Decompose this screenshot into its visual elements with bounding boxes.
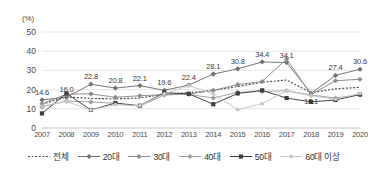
x-axis-tick-2008: 2008: [59, 130, 75, 139]
data-point-marker: [88, 99, 93, 104]
x-axis-tick-2014: 2014: [205, 130, 221, 139]
data-point-marker: [285, 96, 289, 100]
data-point-marker: [89, 108, 93, 112]
y-axis-tick-20: 20: [10, 85, 36, 95]
x-axis-tick-2013: 2013: [181, 130, 197, 139]
x-axis-tick-2019: 2019: [328, 130, 344, 139]
x-axis-tick-2010: 2010: [108, 130, 124, 139]
legend-label: 30대: [153, 150, 170, 162]
data-point-marker: [88, 91, 93, 96]
data-label: 34.1: [280, 51, 294, 60]
legend-swatch-icon: [128, 152, 150, 161]
data-label: 14.6: [35, 88, 49, 97]
data-point-marker: [333, 78, 338, 83]
x-axis-tick-labels: 2007200820092010201120122013201420152016…: [42, 130, 360, 144]
x-axis-tick-2018: 2018: [303, 130, 319, 139]
data-point-marker: [358, 92, 362, 96]
data-point-marker: [211, 102, 215, 106]
data-point-marker: [88, 82, 93, 87]
legend-swatch-icon: [78, 152, 100, 161]
data-label: 19.6: [157, 78, 171, 87]
data-point-marker: [211, 92, 215, 96]
data-point-marker: [113, 103, 117, 107]
data-label: 30.6: [353, 57, 367, 66]
legend-item-2[interactable]: 30대: [128, 150, 170, 162]
data-point-marker: [290, 154, 294, 158]
data-point-marker: [138, 104, 142, 108]
legend-label: 전체: [53, 150, 68, 162]
legend-swatch-icon: [280, 152, 302, 161]
y-axis-tick-40: 40: [10, 46, 36, 56]
data-point-marker: [211, 95, 216, 100]
data-point-marker: [162, 92, 166, 96]
x-axis-tick-2009: 2009: [83, 130, 99, 139]
legend-label: 60대 이상: [305, 150, 339, 162]
data-point-marker: [65, 100, 69, 104]
legend-item-4[interactable]: 50대: [230, 150, 272, 162]
x-axis-tick-2012: 2012: [156, 130, 172, 139]
data-label: 22.1: [133, 74, 147, 83]
data-label: 20.8: [108, 76, 122, 85]
line-chart: (%) 01020304050 14.616.022.820.822.119.6…: [0, 0, 368, 180]
legend-item-0[interactable]: 전체: [28, 150, 68, 162]
data-label: 28.1: [206, 62, 220, 71]
data-point-marker: [239, 154, 243, 158]
y-axis-tick-30: 30: [10, 65, 36, 75]
legend-label: 50대: [255, 150, 272, 162]
data-point-marker: [187, 84, 191, 88]
legend-label: 40대: [204, 150, 221, 162]
x-axis-tick-2016: 2016: [254, 130, 270, 139]
x-axis-tick-2020: 2020: [352, 130, 368, 139]
data-label: 22.4: [182, 73, 196, 82]
data-point-marker: [188, 153, 193, 158]
legend-item-1[interactable]: 20대: [78, 150, 120, 162]
data-point-marker: [236, 108, 240, 112]
legend-swatch-icon: [28, 152, 50, 161]
data-point-marker: [187, 92, 191, 96]
data-point-marker: [40, 104, 44, 108]
data-point-marker: [260, 59, 265, 64]
x-axis-tick-2007: 2007: [34, 130, 50, 139]
y-axis-unit-label: (%): [22, 14, 34, 23]
y-axis-tick-50: 50: [10, 27, 36, 37]
legend-label: 20대: [103, 150, 120, 162]
legend-swatch-icon: [179, 152, 201, 161]
data-point-marker: [86, 153, 91, 158]
legend-item-5[interactable]: 60대 이상: [280, 150, 339, 162]
data-point-marker: [285, 89, 289, 93]
data-label: 34.4: [255, 50, 269, 59]
data-label: 30.8: [231, 57, 245, 66]
chart-legend: 전체20대30대40대50대60대 이상: [0, 150, 368, 162]
data-point-marker: [357, 67, 362, 72]
legend-swatch-icon: [230, 152, 252, 161]
data-point-marker: [260, 102, 264, 106]
data-point-marker: [40, 111, 44, 115]
x-axis-tick-2011: 2011: [132, 130, 147, 139]
data-label: 18.1: [304, 97, 318, 106]
data-label: 22.8: [84, 72, 98, 81]
y-axis-tick-0: 0: [10, 123, 36, 133]
data-point-marker: [236, 91, 240, 95]
data-point-marker: [357, 77, 362, 82]
data-point-marker: [211, 71, 216, 76]
data-point-marker: [334, 97, 338, 101]
data-label: 16.0: [59, 85, 73, 94]
data-label: 27.4: [329, 63, 343, 72]
y-axis-tick-10: 10: [10, 104, 36, 114]
x-axis-tick-2017: 2017: [279, 130, 295, 139]
data-point-marker: [137, 83, 142, 88]
legend-item-3[interactable]: 40대: [179, 150, 221, 162]
x-axis-tick-2015: 2015: [230, 130, 246, 139]
data-point-marker: [260, 88, 264, 92]
data-point-marker: [137, 153, 142, 158]
